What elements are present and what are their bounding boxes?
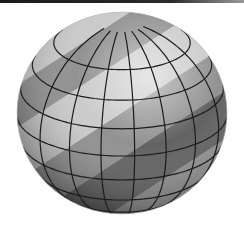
sphere-illustration (0, 0, 244, 228)
